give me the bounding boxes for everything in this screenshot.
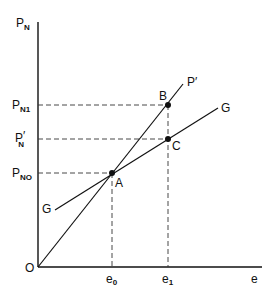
y-axis-label: PN <box>16 16 30 32</box>
origin-label: O <box>25 261 34 275</box>
g-line-upper-label: G <box>221 101 230 115</box>
g-line <box>55 108 218 210</box>
point-a-label: A <box>115 176 123 190</box>
point-b-label: B <box>159 89 167 103</box>
point-c <box>165 136 171 142</box>
point-c-label: C <box>172 139 181 153</box>
diagram-canvas: A B C P′ G G PN PN1 P′N PNO O e0 e1 e <box>0 0 272 294</box>
x-axis-label: e <box>251 272 258 286</box>
y-tick-pn1: PN1 <box>12 98 31 114</box>
g-line-lower-label: G <box>42 202 51 216</box>
x-tick-e0: e0 <box>106 272 118 287</box>
y-tick-pno: PNO <box>12 166 32 182</box>
x-tick-e1: e1 <box>162 272 174 287</box>
p-prime-line-label: P′ <box>187 75 198 89</box>
y-tick-pn-prime: P′N <box>15 129 26 149</box>
